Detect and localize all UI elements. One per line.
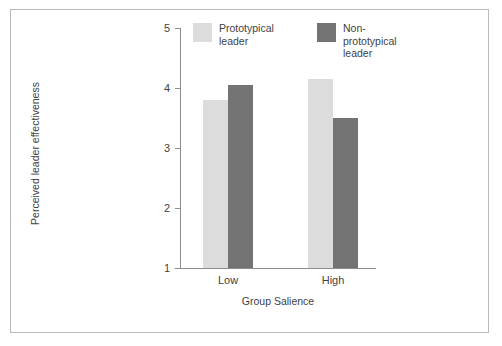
y-tick-mark-3 xyxy=(175,148,180,149)
y-tick-mark-1 xyxy=(175,268,180,269)
bar-low-prototypical xyxy=(203,100,228,268)
bar-high-prototypical xyxy=(308,79,333,268)
x-axis-title: Group Salience xyxy=(180,295,376,307)
y-tick-4: 4 xyxy=(144,83,170,94)
legend-swatch-prototypical xyxy=(193,23,212,42)
y-tick-mark-4 xyxy=(175,88,180,89)
legend-label-nonprototypical: Non-prototypical leader xyxy=(343,22,417,60)
legend-label-nonprototypical-line2: leader xyxy=(343,47,372,59)
legend: Prototypical leader Non-prototypical lea… xyxy=(193,22,417,60)
y-tick-label-2: 2 xyxy=(144,203,170,214)
bar-column-low-prototypical xyxy=(203,28,228,268)
legend-label-prototypical-line2: leader xyxy=(219,35,248,47)
y-tick-label-1: 1 xyxy=(144,263,170,274)
y-tick-1: 1 xyxy=(144,263,170,274)
bar-column-high-prototypical xyxy=(308,28,333,268)
bar-low-nonprototypical xyxy=(228,85,253,268)
legend-entry-prototypical: Prototypical leader xyxy=(193,22,293,47)
legend-entry-nonprototypical: Non-prototypical leader xyxy=(317,22,417,60)
bar-high-nonprototypical xyxy=(333,118,358,268)
legend-swatch-nonprototypical xyxy=(317,23,336,42)
x-axis-line xyxy=(180,268,376,269)
y-tick-mark-2 xyxy=(175,208,180,209)
x-tick-label-high: High xyxy=(303,274,363,286)
bar-chart: 1 2 3 4 5 Perceived leader effectiveness… xyxy=(0,0,502,346)
legend-label-nonprototypical-line1: Non-prototypical xyxy=(343,22,397,47)
y-tick-label-3: 3 xyxy=(144,143,170,154)
y-tick-label-5: 5 xyxy=(144,23,170,34)
bar-column-high-nonprototypical xyxy=(333,28,358,268)
y-axis-title: Perceived leader effectiveness xyxy=(30,49,41,259)
y-tick-2: 2 xyxy=(144,203,170,214)
x-tick-label-low: Low xyxy=(198,274,258,286)
y-axis-line xyxy=(180,28,181,269)
y-tick-5: 5 xyxy=(144,23,170,34)
bar-column-low-nonprototypical xyxy=(228,28,253,268)
y-tick-3: 3 xyxy=(144,143,170,154)
legend-label-prototypical-line1: Prototypical xyxy=(219,22,274,34)
legend-label-prototypical: Prototypical leader xyxy=(219,22,293,47)
y-tick-mark-5 xyxy=(175,28,180,29)
y-tick-label-4: 4 xyxy=(144,83,170,94)
